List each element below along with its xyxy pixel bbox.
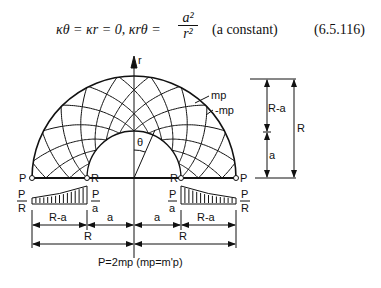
dim-label-a: a: [154, 211, 161, 223]
load-label-pa-num: P: [169, 188, 176, 200]
caption: P=2mp (mp=m'p): [98, 256, 183, 268]
label-r-right: R: [170, 172, 178, 184]
angle-label: θ: [137, 136, 143, 148]
dim-label-r-minus-a-vertical: R-a: [268, 102, 287, 114]
dim-label-a: a: [107, 211, 114, 223]
axis-label: r: [138, 54, 142, 66]
slip-line: [199, 133, 225, 178]
axis-arrow-icon: [131, 56, 137, 68]
slip-line: [33, 163, 45, 177]
slip-line: [43, 133, 69, 178]
right-dimensions: [250, 79, 296, 178]
plate-diagram: r θ mp -mp P R R P P R P a P a P R: [0, 0, 381, 288]
label-r-left: R: [91, 172, 99, 184]
dim-label-r-minus-a: R-a: [49, 211, 68, 223]
dim-label-r: R: [179, 230, 187, 242]
load-label-pa-num: P: [92, 188, 99, 200]
load-label-pa-den: a: [92, 202, 99, 214]
theta-arc: [134, 150, 145, 152]
moment-label-neg-mp: -mp: [215, 104, 234, 116]
dim-label-r-minus-a: R-a: [197, 211, 216, 223]
support-circle: [234, 176, 239, 181]
dim-label-a-vertical: a: [269, 149, 276, 161]
load-label-pr-num: P: [18, 188, 25, 200]
load-label-pr-num: P: [241, 188, 248, 200]
support-circle: [179, 176, 184, 181]
load-label-pr-den: R: [18, 202, 26, 214]
support-circle: [85, 176, 90, 181]
moment-label-mp: mp: [211, 89, 226, 101]
slip-line: [223, 163, 235, 177]
dim-label-r-vertical: R: [297, 122, 305, 134]
support-circle: [30, 176, 35, 181]
dim-label-r: R: [84, 230, 92, 242]
label-p-right: P: [240, 172, 247, 184]
load-label-pa-den: a: [169, 202, 176, 214]
label-p-left: P: [19, 172, 26, 184]
load-label-pr-den: R: [241, 202, 249, 214]
